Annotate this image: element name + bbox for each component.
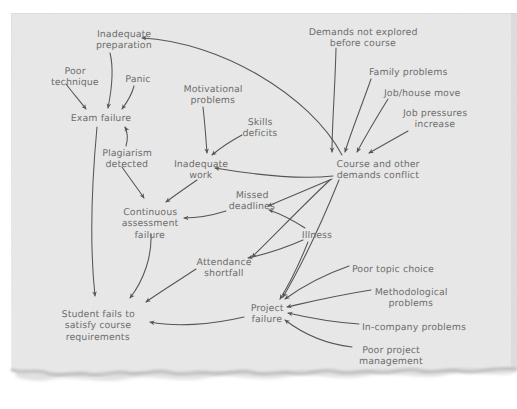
diagram-canvas: Inadequate preparation Poor technique Pa…	[0, 0, 517, 409]
paper-right-shade	[511, 13, 517, 367]
diagram-svg	[0, 0, 517, 409]
paper-sheet	[11, 13, 517, 375]
